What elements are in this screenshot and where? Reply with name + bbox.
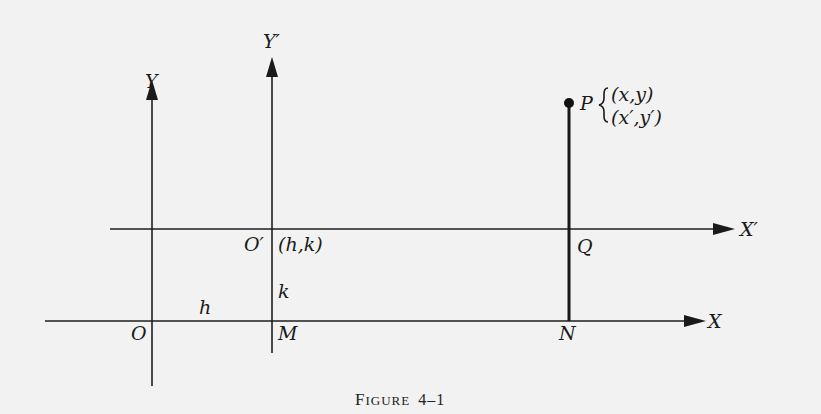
point-p-label: P <box>579 92 594 114</box>
y-axis-label: Y <box>145 70 160 92</box>
point-m-label: M <box>277 322 298 344</box>
x-axis-label: X <box>706 310 723 332</box>
p-coords-old: (x,y) <box>611 83 653 105</box>
new-origin-label: O′ <box>244 233 265 255</box>
x-prime-axis-label: X′ <box>738 218 759 240</box>
p-coords-new: (x′,y′) <box>611 106 662 128</box>
k-label: k <box>278 280 290 302</box>
origin-label: O <box>131 322 147 344</box>
point-p <box>564 98 574 108</box>
caption-word: IGURE <box>365 393 410 408</box>
h-label: h <box>199 296 211 318</box>
point-n-label: N <box>558 322 577 344</box>
x-axis-arrowhead <box>684 315 706 327</box>
new-origin-coords: (h,k) <box>278 233 323 255</box>
translation-of-axes-diagram: Y Y′ X X′ O O′ (h,k) M N Q P (x,y) (x′,y… <box>0 0 821 414</box>
x-prime-axis-arrowhead <box>713 223 735 235</box>
point-q-label: Q <box>577 235 593 257</box>
y-prime-axis-label: Y′ <box>263 30 281 52</box>
caption-initial: F <box>355 390 365 409</box>
y-prime-axis-arrowhead <box>266 57 278 77</box>
figure-caption: FIGURE4–1 <box>355 390 445 409</box>
caption-number: 4–1 <box>418 391 445 408</box>
brace-icon <box>599 88 608 122</box>
